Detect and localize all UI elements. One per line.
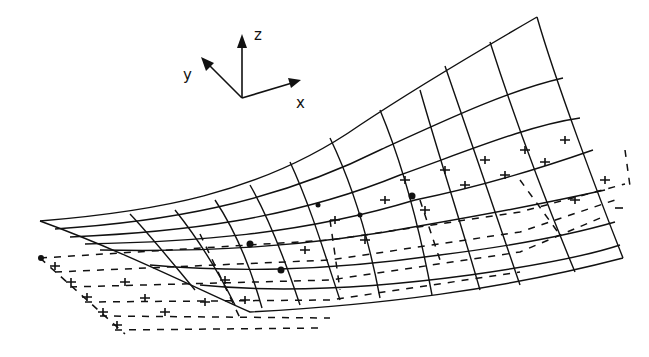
deformed-mesh xyxy=(40,17,623,312)
y-axis-label: y xyxy=(183,66,192,84)
y-axis-arrow xyxy=(208,64,242,98)
x-axis-arrow xyxy=(242,83,292,98)
x-axis-label: x xyxy=(296,94,305,112)
x-arrowhead-icon xyxy=(288,78,301,88)
z-arrowhead-icon xyxy=(237,34,247,48)
surface-mesh-diagram: z y x xyxy=(0,0,649,357)
axis-triad: z y x xyxy=(183,26,305,112)
corner-node xyxy=(38,255,44,261)
z-axis-label: z xyxy=(254,26,262,44)
